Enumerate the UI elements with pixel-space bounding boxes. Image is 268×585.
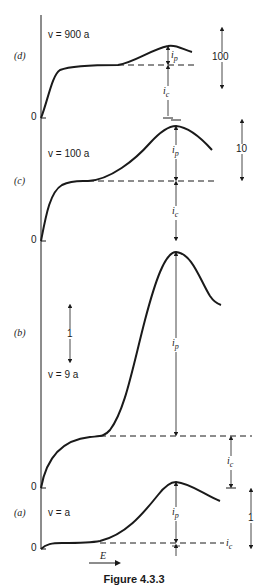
ip-label-b: ip [172, 338, 179, 352]
panel-label-c: (c) [14, 176, 25, 186]
zero-label-a: 0 [31, 543, 37, 553]
zero-label-b: 0 [31, 482, 37, 492]
ip-label-d: ip [171, 50, 178, 64]
ic-label-a: ic [226, 538, 232, 552]
panel-label-d: (d) [14, 51, 26, 61]
zero-label-d: 0 [31, 112, 37, 122]
panel-label-b: (b) [14, 328, 26, 338]
ic-label-c: ic [172, 206, 178, 220]
curve-c [41, 126, 212, 241]
scale-label-d: 100 [212, 52, 229, 62]
e-axis-label: E [100, 551, 106, 561]
scale-label-b: 1 [67, 329, 73, 339]
scale-label-c: 10 [236, 144, 247, 154]
scan-rate-d: v = 900 a [48, 30, 89, 40]
ic-label-d: ic [163, 86, 169, 100]
curve-d [41, 46, 192, 118]
scan-rate-c: v = 100 a [48, 149, 89, 159]
scale-label-a: 1 [248, 513, 254, 523]
scan-rate-b: v = 9 a [48, 370, 78, 380]
figure-caption: Figure 4.3.3 [0, 573, 268, 585]
ip-label-a: ip [172, 507, 179, 521]
ip-label-c: ip [172, 145, 179, 159]
panel-label-a: (a) [14, 508, 26, 518]
scan-rate-a: v = a [48, 508, 70, 518]
zero-label-c: 0 [31, 235, 37, 245]
ic-label-b: ic [227, 456, 233, 470]
